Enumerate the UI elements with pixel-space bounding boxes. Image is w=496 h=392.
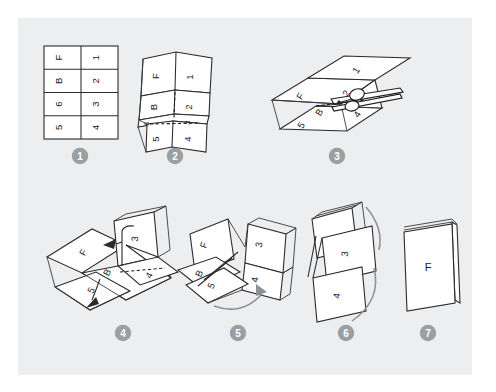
step-7-badge-label: 7 [425,328,431,339]
step-7-finished-booklet: F [404,219,460,311]
step1-cell-label-4: 4 [91,125,102,130]
step-3-badge: 3 [329,148,345,164]
step-4-badge-label: 4 [120,328,126,339]
step-7-badge: 7 [420,325,436,341]
step1-cell-label-2: 2 [91,78,102,83]
step-6-badge-label: 6 [343,328,349,339]
step-2-badge: 2 [167,148,183,164]
step4-label-3: 3 [129,236,140,242]
step-1-badge-label: 1 [77,151,83,162]
step2-label-F: F [150,73,161,79]
step1-cell-label-5: 5 [54,125,65,130]
step-2-accordion-fold: F 1 B 2 6 3 5 4 [138,52,212,152]
step-3-badge-label: 3 [334,151,340,162]
figure-canvas: F B 6 5 1 2 3 4 1 F 1 B 2 6 3 5 [0,0,496,392]
step-2-badge-label: 2 [172,151,178,162]
step2-label-4: 4 [182,136,193,141]
step-5-badge-label: 5 [235,328,241,339]
step-5-badge: 5 [230,325,246,341]
step1-cell-label-1: 1 [91,55,102,60]
step-1-badge: 1 [72,148,88,164]
step2-label-5: 5 [150,136,161,141]
step6-label-3: 3 [339,251,350,257]
step7-cover-label: F [425,261,432,273]
step-1-flat-sheet: F B 6 5 1 2 3 4 [44,46,118,139]
step2-label-B: B [148,104,159,110]
step1-cell-label-3: 3 [91,101,102,106]
scissors-rivet [338,101,341,104]
step-4-badge: 4 [115,325,131,341]
step2-label-2: 2 [183,104,194,109]
instruction-figure: F B 6 5 1 2 3 4 1 F 1 B 2 6 3 5 [0,0,496,392]
step2-label-1: 1 [184,74,195,79]
step6-label-4: 4 [331,293,342,299]
step1-cell-label-6: 6 [54,101,65,106]
step-6-badge: 6 [338,325,354,341]
step1-cell-label-B: B [54,78,65,84]
step1-cell-label-F: F [54,55,65,61]
